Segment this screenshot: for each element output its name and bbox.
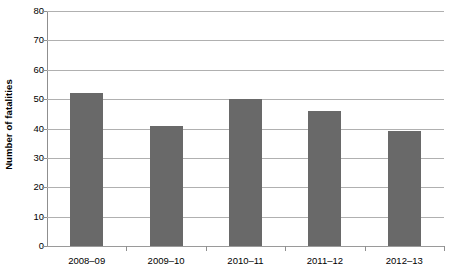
x-axis-tick-mark [126,246,127,251]
y-axis-tick-labels: 01020304050607080 [14,0,44,248]
x-axis-tick-labels: 2008–092009–102010–112011–122012–13 [47,255,444,275]
y-axis-tick-label: 40 [14,124,44,134]
bar[interactable] [70,93,103,246]
plot-area [47,11,444,246]
y-axis-tick-label: 10 [14,212,44,222]
x-axis-tick-label: 2008–09 [47,255,126,267]
y-axis-tick-label: 80 [14,6,44,16]
bar-chart: Number of fatalities 01020304050607080 2… [0,0,449,278]
x-axis-tick-mark [206,246,207,251]
y-axis-title-label: Number of fatalities [3,79,14,170]
gridline [47,40,444,41]
y-axis-tick-label: 20 [14,182,44,192]
x-axis-tick-label: 2010–11 [206,255,285,267]
y-axis-tick-label: 30 [14,153,44,163]
y-axis-tick-label: 0 [14,241,44,251]
y-axis-tick-label: 70 [14,35,44,45]
y-axis-tick-label: 60 [14,65,44,75]
x-axis-tick-label: 2011–12 [285,255,364,267]
gridline [47,70,444,71]
x-axis-tick-label: 2009–10 [126,255,205,267]
bar[interactable] [308,111,341,246]
x-axis-tick-mark [365,246,366,251]
x-axis-tick-mark [444,246,445,251]
gridline [47,11,444,12]
x-axis-ticks [47,246,444,251]
x-axis-tick-label: 2012–13 [365,255,444,267]
y-axis-tick-label: 50 [14,94,44,104]
x-axis-tick-mark [285,246,286,251]
bar[interactable] [388,131,421,246]
bar[interactable] [229,99,262,246]
bar[interactable] [150,126,183,246]
